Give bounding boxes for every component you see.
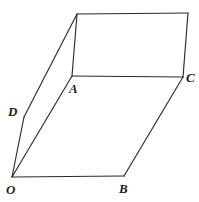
edge-E-to-D [24,14,77,117]
vertex-label-C: C [186,71,195,84]
edge-right-upper [183,13,188,77]
geometry-line-drawing [0,0,199,202]
vertex-label-A: A [69,82,78,95]
edge-A-to-C [72,76,183,77]
vertex-label-D: D [8,105,17,118]
vertex-label-B: B [119,182,128,195]
edge-B-to-C [124,77,183,176]
edge-O-to-A [12,76,72,177]
vertex-label-O: O [6,183,15,196]
edge-group [12,13,188,177]
edge-O-to-B [12,176,124,177]
edge-top [77,13,188,14]
geometry-figure-canvas: A C D O B [0,0,199,202]
